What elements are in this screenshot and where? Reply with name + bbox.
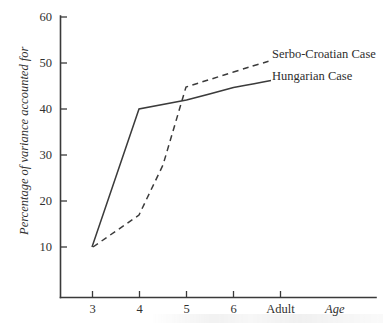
series-line-serbo-croatian-case	[93, 61, 271, 248]
y-axis-title: Percentage of variance accounted for	[18, 47, 31, 235]
series-line-hungarian-case	[92, 81, 271, 248]
y-tick-label-60: 60	[28, 11, 52, 24]
y-tick-label-50: 50	[28, 57, 52, 70]
scan-artifact	[0, 314, 383, 323]
y-tick-label-30: 30	[28, 149, 52, 162]
y-tick-label-10: 10	[28, 241, 52, 254]
y-tick-label-40: 40	[28, 103, 52, 116]
series-label-hungarian-case: Hungarian Case	[272, 70, 352, 83]
y-tick-label-20: 20	[28, 195, 52, 208]
series-label-serbo-croatian-case: Serbo-Croatian Case	[272, 48, 376, 61]
chart-figure: 60 50 40 30 20 10 3 4 5 6 Adult Age Perc…	[0, 0, 383, 323]
